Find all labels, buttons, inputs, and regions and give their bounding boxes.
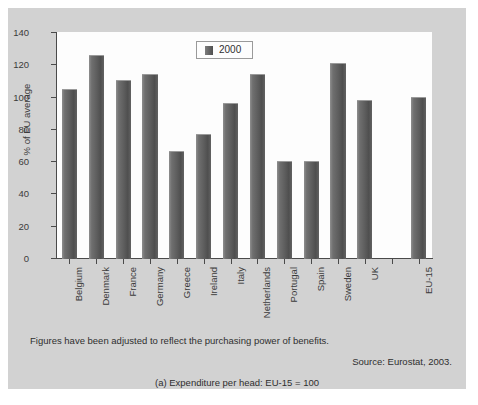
x-tick <box>392 259 393 264</box>
y-axis-line <box>56 32 57 259</box>
x-axis-line <box>56 258 433 259</box>
y-tick <box>51 97 56 98</box>
y-tick <box>51 32 56 33</box>
legend-label-2000: 2000 <box>219 45 241 55</box>
x-tick <box>231 259 232 264</box>
x-tick <box>177 259 178 264</box>
x-tick-label: Denmark <box>100 267 111 306</box>
bar <box>196 134 211 259</box>
bar <box>411 97 426 259</box>
bar <box>304 161 319 259</box>
bar <box>277 161 292 259</box>
x-tick-label: Sweden <box>342 267 353 301</box>
x-tick-label: Ireland <box>208 267 219 296</box>
x-tick-label: Portugal <box>288 267 299 302</box>
x-tick-label: Spain <box>315 267 326 291</box>
bar <box>250 74 265 259</box>
x-tick <box>419 259 420 264</box>
bar <box>357 100 372 259</box>
figure-panel: % of EU average 020406080100120140 Belgi… <box>8 8 466 389</box>
x-tick <box>365 259 366 264</box>
x-tick <box>204 259 205 264</box>
bar <box>169 151 184 259</box>
y-tick-label: 0 <box>0 254 29 264</box>
bar <box>62 89 77 260</box>
bar <box>116 80 131 259</box>
legend-swatch-2000 <box>205 46 213 55</box>
x-tick <box>338 259 339 264</box>
note-source: Source: Eurostat, 2003. <box>352 356 452 367</box>
y-tick-label: 20 <box>0 222 29 232</box>
x-tick-label: Netherlands <box>261 267 272 318</box>
note-caption: (a) Expenditure per head: EU-15 = 100 <box>8 377 466 388</box>
y-tick-label: 40 <box>0 189 29 199</box>
plot-area <box>56 32 432 258</box>
y-tick <box>51 226 56 227</box>
x-tick-label: Belgium <box>73 267 84 301</box>
y-tick <box>51 161 56 162</box>
x-tick-label: UK <box>369 267 380 280</box>
y-tick-label: 60 <box>0 157 29 167</box>
x-tick <box>150 259 151 264</box>
chart-legend: 2000 <box>196 41 253 59</box>
y-tick-label: 80 <box>0 125 29 135</box>
y-tick-label: 140 <box>0 28 29 38</box>
bar <box>142 74 157 259</box>
bar <box>330 63 345 259</box>
x-tick-label: France <box>127 267 138 297</box>
x-tick <box>284 259 285 264</box>
y-tick <box>51 129 56 130</box>
y-tick <box>51 64 56 65</box>
y-tick <box>51 258 56 259</box>
x-tick <box>123 259 124 264</box>
x-tick <box>69 259 70 264</box>
y-tick-label: 100 <box>0 93 29 103</box>
x-tick-label: Germany <box>154 267 165 306</box>
x-tick-label: EU-15 <box>423 267 434 294</box>
x-tick-label: Italy <box>235 267 246 284</box>
x-tick <box>96 259 97 264</box>
y-tick-label: 120 <box>0 60 29 70</box>
bar <box>223 103 238 259</box>
note-adjusted: Figures have been adjusted to reflect th… <box>30 335 329 346</box>
x-tick <box>257 259 258 264</box>
bar <box>89 55 104 259</box>
y-tick <box>51 193 56 194</box>
x-tick <box>311 259 312 264</box>
x-tick-label: Greece <box>181 267 192 298</box>
